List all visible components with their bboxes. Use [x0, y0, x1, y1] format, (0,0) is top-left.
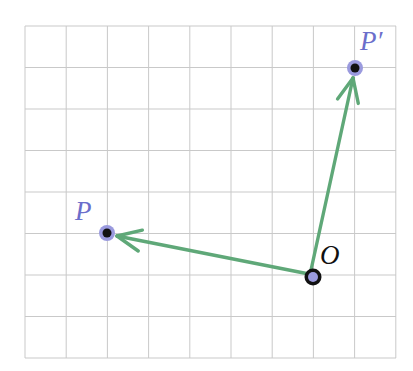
point-p-inner [103, 229, 112, 238]
grid [25, 26, 396, 358]
point-label-o: O [320, 242, 340, 269]
rotation-diagram-figure: P P′ O [0, 0, 413, 371]
point-label-p-prime: P′ [360, 28, 382, 55]
vector-O-to-P-prime-arrowhead-left [353, 78, 358, 103]
point-o-inner [308, 272, 318, 282]
vector-O-to-P-shaft [117, 236, 309, 274]
diagram-canvas [0, 0, 413, 371]
point-label-p: P [75, 198, 92, 225]
point-pprime-inner [351, 64, 360, 73]
